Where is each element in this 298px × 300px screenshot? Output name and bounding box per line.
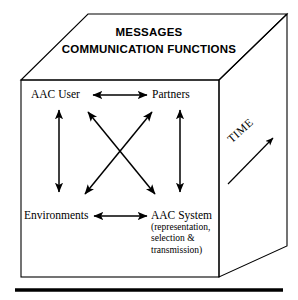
- arrow-time-axis: [228, 138, 273, 184]
- arrow-aacuser-aacsystem-diagonal: [88, 112, 155, 194]
- top-face-label-communication-functions: COMMUNICATION FUNCTIONS: [0, 43, 298, 55]
- node-label-partners: Partners: [152, 88, 190, 101]
- node-label-aac-user: AAC User: [31, 88, 80, 101]
- diagram-canvas: MESSAGES COMMUNICATION FUNCTIONS AAC Use…: [0, 0, 298, 300]
- node-label-aac-system-sub-line3: transmission): [151, 245, 212, 257]
- node-label-environments: Environments: [24, 209, 89, 222]
- top-face-label-messages: MESSAGES: [0, 26, 298, 38]
- node-label-aac-system-sub-line1: (representation,: [151, 222, 212, 234]
- node-label-aac-system: AAC System (representation, selection & …: [151, 209, 212, 257]
- arrow-partners-environments-diagonal: [85, 112, 152, 194]
- node-label-aac-system-title: AAC System: [151, 209, 212, 222]
- node-label-aac-system-sub-line2: selection &: [151, 233, 212, 245]
